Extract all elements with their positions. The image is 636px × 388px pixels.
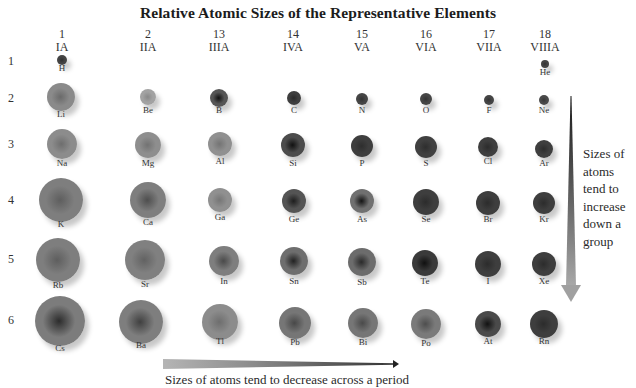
element-symbol: Mg (128, 158, 168, 168)
group-header-13: 13IIIA (189, 28, 249, 54)
group-roman: IA (32, 41, 92, 54)
group-header-2: 2IIA (118, 28, 178, 54)
element-symbol: S (406, 158, 446, 168)
element-symbol: Al (200, 156, 240, 166)
atom-ga-icon (208, 188, 232, 212)
element-symbol: P (342, 158, 382, 168)
element-symbol: Cl (468, 156, 508, 166)
element-symbol: H (42, 63, 82, 73)
element-symbol: Na (42, 158, 82, 168)
element-symbol: Pb (275, 337, 315, 347)
atom-rb-icon (36, 238, 80, 282)
element-symbol: In (204, 276, 244, 286)
down-arrow-head-icon (561, 285, 581, 302)
element-symbol: Sr (125, 279, 165, 289)
group-roman: IIA (118, 41, 178, 54)
element-symbol: Rb (38, 280, 78, 290)
element-symbol: As (342, 214, 382, 224)
element-symbol: Bi (343, 337, 383, 347)
group-header-1: 1IA (32, 28, 92, 54)
element-symbol: C (274, 105, 314, 115)
atom-ne-icon (539, 95, 549, 105)
atom-xe-icon (532, 252, 556, 276)
element-symbol: Se (406, 214, 446, 224)
period-label-6: 6 (5, 313, 17, 328)
atom-rn-icon (530, 310, 558, 338)
element-symbol: N (342, 105, 382, 115)
atom-li-icon (47, 83, 75, 111)
period-label-5: 5 (5, 252, 17, 267)
element-symbol: Sn (274, 276, 314, 286)
element-symbol: Po (406, 338, 446, 348)
atom-ge-icon (282, 189, 306, 213)
atom-at-icon (475, 311, 501, 337)
right-arrow-shaft-icon (163, 359, 395, 369)
element-symbol: O (406, 105, 446, 115)
element-symbol: Br (468, 214, 508, 224)
atom-p-icon (351, 135, 373, 157)
group-roman: IVA (263, 41, 323, 54)
atom-kr-icon (533, 192, 555, 214)
group-header-17: 17VIIA (459, 28, 519, 54)
element-symbol: Be (128, 105, 168, 115)
atom-sb-icon (348, 248, 376, 276)
atom-ca-icon (130, 182, 166, 218)
atom-f-icon (484, 95, 494, 105)
element-symbol: Si (273, 158, 313, 168)
period-label-3: 3 (5, 137, 17, 152)
element-symbol: B (199, 105, 239, 115)
atom-cs-icon (35, 296, 85, 346)
element-symbol: Ar (524, 158, 564, 168)
down-arrow-shaft-icon (566, 96, 576, 286)
group-roman: VIIA (459, 41, 519, 54)
atom-pb-icon (279, 307, 311, 339)
group-roman: VIA (396, 41, 456, 54)
group-header-14: 14IVA (263, 28, 323, 54)
element-symbol: Ge (274, 214, 314, 224)
element-symbol: Ba (121, 340, 161, 350)
atom-bi-icon (348, 308, 378, 338)
atom-ba-icon (119, 300, 163, 344)
atom-sn-icon (280, 247, 308, 275)
element-symbol: Cs (40, 343, 80, 353)
group-roman: IIIA (189, 41, 249, 54)
element-symbol: Li (41, 109, 81, 119)
element-symbol: Rn (524, 336, 564, 346)
atom-po-icon (411, 309, 441, 339)
atom-tl-icon (202, 304, 238, 340)
atom-cl-icon (478, 137, 498, 157)
atom-sr-icon (125, 240, 165, 280)
element-symbol: Te (405, 276, 445, 286)
diagram-title: Relative Atomic Sizes of the Representat… (0, 4, 636, 22)
period-label-4: 4 (5, 193, 17, 208)
element-symbol: Tl (200, 336, 240, 346)
atom-ar-icon (535, 140, 553, 158)
group-header-18: 18VIIIA (515, 28, 575, 54)
element-symbol: Ca (128, 217, 168, 227)
atom-n-icon (356, 93, 368, 105)
right-arrow-head-icon (393, 360, 399, 368)
atom-k-icon (39, 178, 83, 222)
atom-br-icon (476, 191, 500, 215)
period-label-2: 2 (5, 91, 17, 106)
atom-s-icon (415, 136, 437, 158)
element-symbol: I (468, 276, 508, 286)
atom-as-icon (350, 189, 374, 213)
group-header-16: 16VIA (396, 28, 456, 54)
element-symbol: Kr (524, 214, 564, 224)
atom-te-icon (412, 250, 438, 276)
element-symbol: Ga (200, 212, 240, 222)
group-roman: VIIIA (515, 41, 575, 54)
element-symbol: Ne (524, 105, 564, 115)
atom-o-icon (420, 93, 432, 105)
period-trend-note: Sizes of atoms tend to decrease across a… (165, 372, 465, 388)
atom-in-icon (209, 246, 239, 276)
atom-si-icon (281, 133, 305, 157)
atom-be-icon (140, 89, 156, 105)
element-symbol: F (469, 105, 509, 115)
atom-na-icon (47, 129, 77, 159)
element-symbol: He (525, 67, 565, 77)
group-roman: VA (332, 41, 392, 54)
atom-se-icon (413, 189, 439, 215)
element-symbol: Sb (342, 277, 382, 287)
